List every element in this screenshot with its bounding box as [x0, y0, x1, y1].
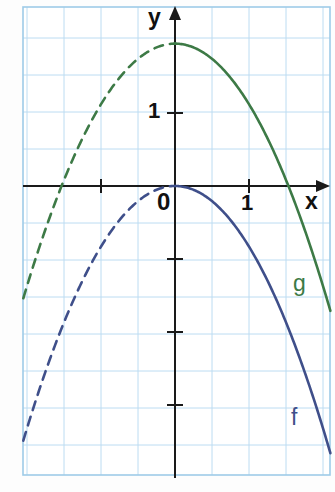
y-axis-label: y	[148, 6, 161, 29]
x-axis-label: x	[305, 190, 318, 213]
y-tick-label-1: 1	[148, 100, 160, 122]
graph-figure: y x 0 1 1 g f	[0, 0, 335, 492]
x-tick-label-1: 1	[241, 192, 253, 214]
origin-label: 0	[157, 190, 170, 214]
plot-svg	[0, 0, 335, 492]
curve-label-g: g	[293, 272, 306, 295]
curve-label-f: f	[291, 406, 297, 429]
